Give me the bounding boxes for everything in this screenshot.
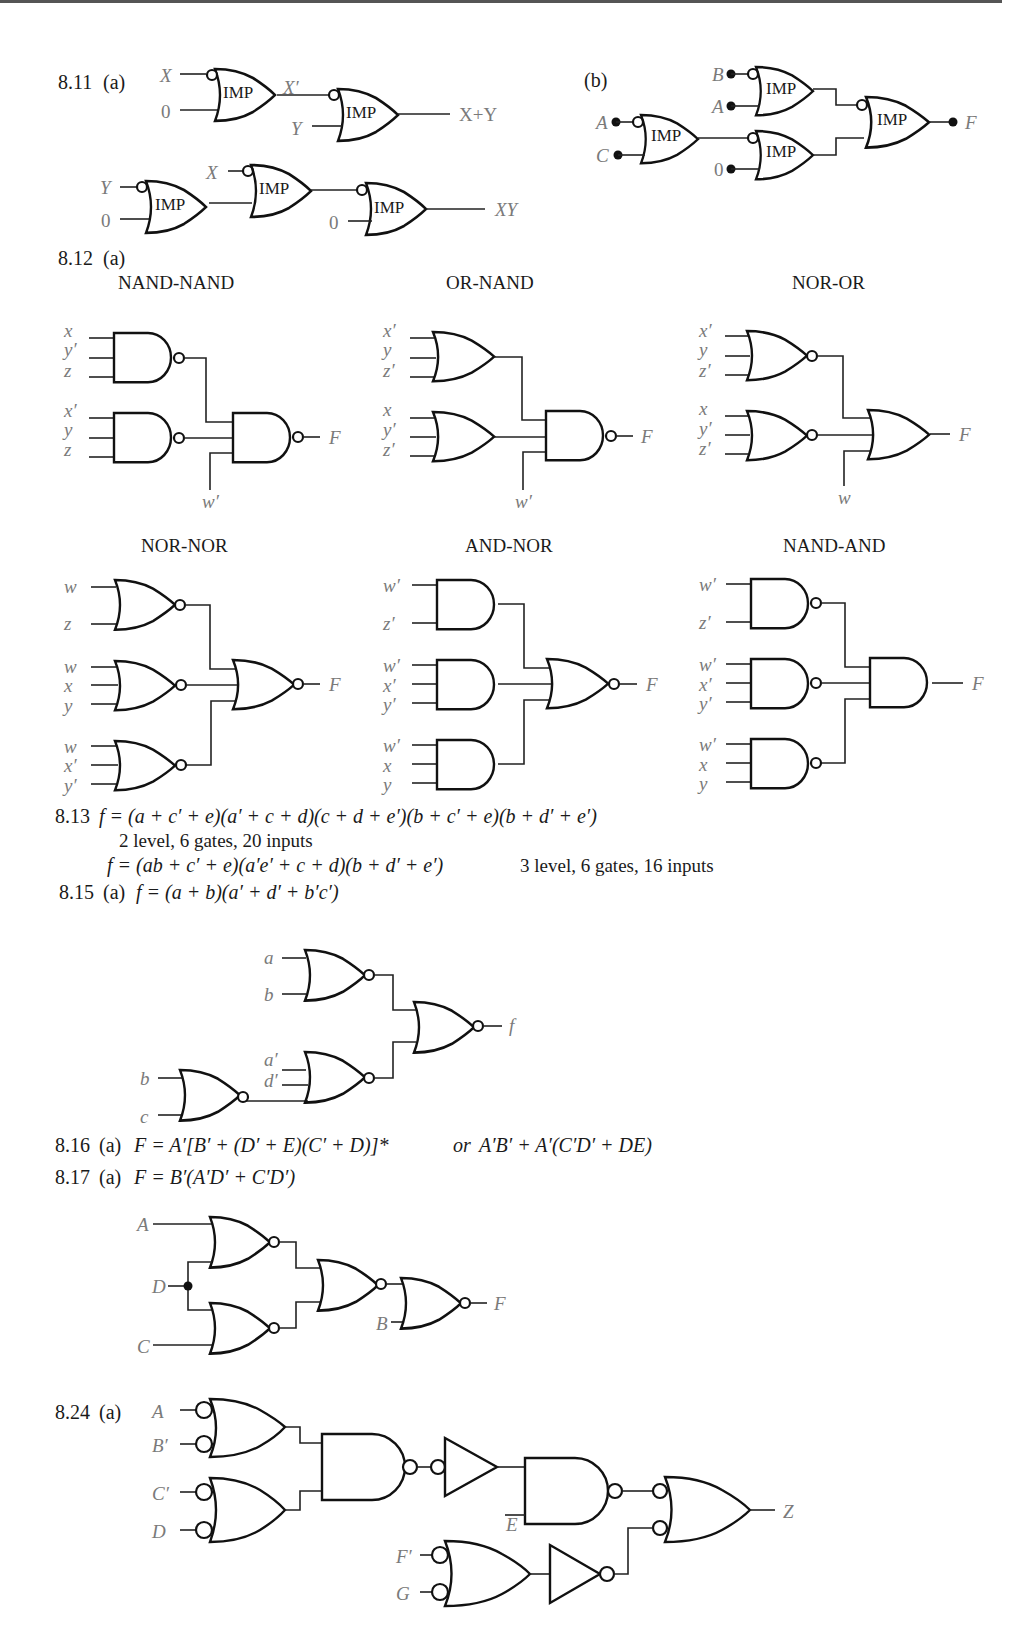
input-label-b: B — [376, 1314, 388, 1333]
input-label: x — [383, 400, 391, 419]
input-label: z′ — [383, 614, 395, 633]
diagram-title-and-nor: AND-NOR — [465, 536, 553, 555]
input-label-0: 0 — [101, 211, 111, 230]
output-label-xy: XY — [495, 200, 517, 219]
input-label: z′ — [383, 361, 395, 380]
input-label: y′ — [64, 776, 77, 795]
diagram-title-nor-or: NOR-OR — [792, 273, 865, 292]
gate-label-imp: IMP — [223, 84, 253, 101]
diagram-title-nand-and: NAND-AND — [783, 536, 885, 555]
input-label: y — [699, 774, 707, 793]
input-label: x — [64, 676, 72, 695]
extra-input-label: w — [838, 488, 851, 507]
input-label-d: D — [152, 1522, 166, 1541]
output-label-f: F — [329, 675, 341, 694]
input-label: b — [140, 1069, 150, 1088]
nor-circuit-817 — [153, 1217, 487, 1354]
input-label: y′ — [699, 694, 712, 713]
input-label: y′ — [383, 420, 396, 439]
output-label-f: f — [509, 1016, 514, 1035]
input-label: b — [264, 985, 274, 1004]
nand-and-circuit — [726, 579, 963, 788]
input-label: w′ — [383, 736, 400, 755]
input-label-a: A — [152, 1402, 164, 1421]
problem-number-8-15: 8.15 — [59, 882, 94, 902]
input-label: y′ — [699, 419, 712, 438]
gate-label-imp: IMP — [651, 127, 681, 144]
input-label: z — [64, 440, 71, 459]
input-label: x′ — [64, 401, 77, 420]
gate-label-imp: IMP — [259, 180, 289, 197]
input-label: z′ — [699, 361, 711, 380]
input-label: w — [64, 577, 77, 596]
input-label: x′ — [64, 756, 77, 775]
equation-8-16-or: or — [453, 1135, 471, 1155]
input-label-y: Y — [100, 178, 111, 197]
extra-input-label: w′ — [515, 492, 532, 511]
input-label-c-prime: C′ — [152, 1484, 169, 1503]
input-label-x: X — [206, 163, 218, 182]
input-label: z — [64, 361, 71, 380]
input-label: d′ — [264, 1071, 278, 1090]
problem-number-8-12: 8.12 — [58, 248, 93, 268]
input-label-c: C — [137, 1337, 150, 1356]
input-label: c — [140, 1107, 148, 1126]
input-label: w′ — [699, 575, 716, 594]
equation-8-16-alt: A′B′ + A′(C′D′ + DE) — [479, 1135, 652, 1155]
input-label-e: E — [506, 1515, 518, 1534]
input-label-0: 0 — [329, 213, 339, 232]
output-label-z: Z — [783, 1502, 794, 1521]
input-label: x′ — [699, 321, 712, 340]
input-label: x — [699, 399, 707, 418]
output-label-f: F — [646, 675, 658, 694]
nor-nor-circuit — [91, 580, 320, 790]
problem-number-8-13: 8.13 — [55, 806, 90, 826]
part-a-label: (a) — [99, 1135, 121, 1155]
problem-number-8-17: 8.17 — [55, 1167, 90, 1187]
input-label-0: 0 — [161, 102, 171, 121]
output-label-f: F — [972, 674, 984, 693]
problem-number-8-11: 8.11 — [58, 72, 92, 92]
nor-or-circuit — [725, 331, 950, 486]
input-label-a: A — [137, 1215, 149, 1234]
part-a-label: (a) — [99, 1402, 121, 1422]
output-label-f: F — [959, 425, 971, 444]
equation-8-13-line1: f = (a + c′ + e)(a′ + c + d)(c + d + e′)… — [99, 806, 597, 826]
input-label: x′ — [383, 676, 396, 695]
input-label: x — [64, 321, 72, 340]
input-label-0: 0 — [714, 160, 724, 179]
nand-nand-circuit — [89, 333, 320, 490]
nor-circuit-815 — [158, 950, 502, 1121]
input-label: w — [64, 737, 77, 756]
input-label: y′ — [64, 340, 77, 359]
gate-label-imp: IMP — [346, 104, 376, 121]
part-a-label: (a) — [103, 248, 125, 268]
input-label: z′ — [699, 439, 711, 458]
input-label: a′ — [264, 1050, 278, 1069]
mid-label-x-prime: X′ — [283, 78, 299, 97]
input-label: y — [699, 340, 707, 359]
input-label-c: C — [596, 146, 609, 165]
equation-8-13-line2: 2 level, 6 gates, 20 inputs — [119, 831, 313, 850]
equation-8-17: F = B′(A′D′ + C′D′) — [134, 1167, 295, 1187]
input-label: x — [699, 755, 707, 774]
input-label-d: D — [152, 1277, 166, 1296]
input-label: y — [64, 420, 72, 439]
input-label: w′ — [383, 656, 400, 675]
input-label-a: A — [712, 97, 724, 116]
input-label-g: G — [396, 1584, 410, 1603]
part-b-label: (b) — [584, 70, 607, 90]
input-label-x: X — [160, 66, 172, 85]
part-a-label: (a) — [99, 1167, 121, 1187]
part-a-label: (a) — [103, 72, 125, 92]
input-label: x — [383, 756, 391, 775]
part-a-label: (a) — [103, 882, 125, 902]
input-label: z — [64, 614, 71, 633]
input-label: x′ — [699, 675, 712, 694]
input-label-a: A — [596, 113, 608, 132]
input-label: y — [383, 340, 391, 359]
input-label: y — [64, 696, 72, 715]
gate-label-imp: IMP — [766, 143, 796, 160]
equation-8-13-line3: f = (ab + c′ + e)(a′e′ + c + d)(b + d′ +… — [107, 855, 443, 875]
diagram-title-nor-nor: NOR-NOR — [141, 536, 228, 555]
